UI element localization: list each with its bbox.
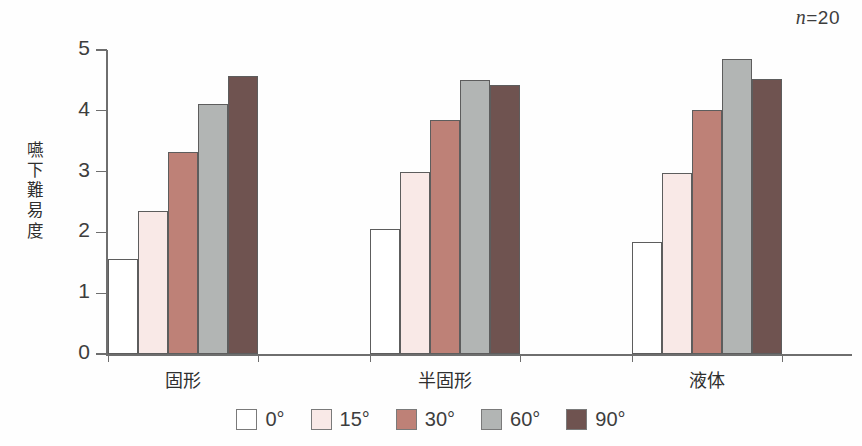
y-axis-tick — [96, 49, 107, 50]
bar-固形-15° — [138, 211, 168, 354]
x-axis-tick — [108, 354, 109, 362]
x-axis-tick — [258, 354, 259, 362]
legend-item-15°: 15° — [311, 408, 370, 431]
x-axis-category-label: 液体 — [689, 366, 725, 392]
legend-swatch-icon — [481, 409, 502, 430]
y-axis-tick — [96, 353, 107, 354]
y-axis-tick — [96, 171, 107, 172]
y-axis-tick — [96, 232, 107, 233]
x-axis-tick — [632, 354, 633, 362]
y-axis-tick — [96, 293, 107, 294]
x-axis-tick — [370, 354, 371, 362]
legend-swatch-icon — [396, 409, 417, 430]
bar-固形-30° — [168, 152, 198, 354]
y-axis-tick-label: 5 — [46, 37, 90, 58]
bar-半固形-0° — [370, 229, 400, 354]
legend-label: 90° — [595, 408, 625, 431]
legend-swatch-icon — [566, 409, 587, 430]
y-axis-tick-label: 0 — [46, 341, 90, 362]
y-axis-title: 嚥 下 難 易 度 — [24, 140, 46, 241]
y-axis-tick-label: 4 — [46, 98, 90, 119]
bar-固形-90° — [228, 76, 258, 354]
sample-size-annotation: n=20 — [796, 6, 840, 29]
bar-液体-60° — [722, 59, 752, 354]
bar-液体-30° — [692, 110, 722, 354]
y-axis-title-char-3: 難 — [24, 180, 46, 200]
bar-固形-60° — [198, 104, 228, 354]
legend-item-60°: 60° — [481, 408, 540, 431]
legend-label: 15° — [340, 408, 370, 431]
x-axis-tick — [782, 354, 783, 362]
bar-半固形-30° — [430, 120, 460, 354]
y-axis-title-char-4: 易 — [24, 200, 46, 220]
bar-液体-0° — [632, 242, 662, 354]
legend-item-90°: 90° — [566, 408, 625, 431]
sample-size-value: =20 — [806, 7, 840, 28]
y-axis-title-char-1: 嚥 — [24, 140, 46, 160]
x-axis-line — [106, 354, 852, 356]
legend-item-30°: 30° — [396, 408, 455, 431]
bar-液体-90° — [752, 79, 782, 354]
y-axis-title-char-5: 度 — [24, 221, 46, 241]
y-axis-tick-label: 3 — [46, 159, 90, 180]
y-axis-tick — [96, 110, 107, 111]
legend-swatch-icon — [236, 409, 257, 430]
chart-legend: 0°15°30°60°90° — [0, 408, 862, 431]
legend-label: 30° — [425, 408, 455, 431]
chart-figure: n=20 嚥 下 難 易 度 012345 固形半固形液体 0°15°30°60… — [0, 0, 862, 446]
y-axis-tick-label: 2 — [46, 219, 90, 240]
legend-label: 60° — [510, 408, 540, 431]
bar-半固形-60° — [460, 80, 490, 354]
y-axis-title-char-2: 下 — [24, 160, 46, 180]
bar-液体-15° — [662, 173, 692, 354]
bar-固形-0° — [108, 259, 138, 354]
y-axis-tick-label: 1 — [46, 280, 90, 301]
bar-半固形-15° — [400, 172, 430, 354]
legend-swatch-icon — [311, 409, 332, 430]
x-axis-category-label: 半固形 — [418, 366, 472, 392]
bar-半固形-90° — [490, 85, 520, 354]
x-axis-tick — [520, 354, 521, 362]
legend-item-0°: 0° — [236, 408, 284, 431]
x-axis-category-label: 固形 — [165, 366, 201, 392]
sample-size-n-symbol: n — [796, 6, 807, 28]
legend-label: 0° — [265, 408, 284, 431]
